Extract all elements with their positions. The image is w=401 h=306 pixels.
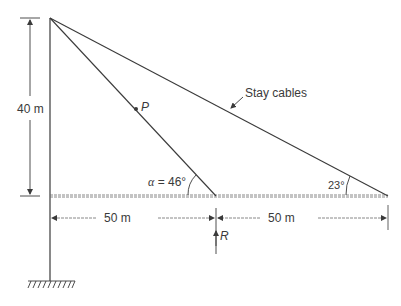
- right-angle-label: 23°: [328, 179, 345, 191]
- fixed-support-icon: [28, 281, 75, 288]
- stay-cable-inner: [50, 18, 216, 196]
- span-left-label: 50 m: [104, 211, 131, 225]
- height-label: 40 m: [17, 102, 44, 116]
- right-angle-arc: [346, 176, 350, 195]
- deck: [50, 195, 388, 197]
- span-dimension: [52, 205, 388, 230]
- cable-stay-diagram: P 40 m 50 m 50 m R α = 46° 23° Stay cabl…: [0, 0, 401, 306]
- span-right-label: 50 m: [268, 211, 295, 225]
- force-p-label: P: [141, 100, 149, 114]
- callout-label: Stay cables: [245, 86, 307, 100]
- reaction-r-label: R: [220, 229, 229, 243]
- force-p-arrow-icon: [134, 107, 138, 111]
- alpha-angle-arc: [188, 175, 196, 195]
- alpha-label: α = 46°: [148, 175, 186, 189]
- callout-leader: [231, 97, 243, 108]
- stay-cable-outer: [50, 18, 388, 196]
